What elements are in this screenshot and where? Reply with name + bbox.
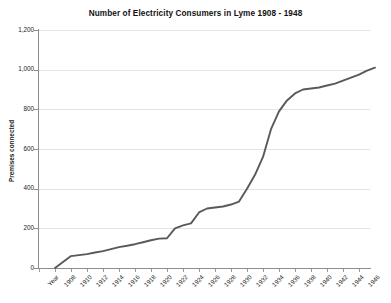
y-axis-tick-200: 200 xyxy=(0,225,34,231)
x-axis-tickmark xyxy=(71,269,72,272)
y-axis-tickmark xyxy=(34,149,38,150)
x-axis-tickmark xyxy=(343,269,344,272)
y-axis-tickmark xyxy=(34,268,38,269)
x-axis-tick-1932: 1932 xyxy=(255,274,269,288)
x-axis-tickmark xyxy=(199,269,200,272)
x-axis-tick-1908: 1908 xyxy=(63,274,77,288)
x-axis-tickmark xyxy=(359,269,360,272)
y-axis-tickmark xyxy=(34,189,38,190)
x-axis-tick-1916: 1916 xyxy=(127,274,141,288)
chart-container: Number of Electricity Consumers in Lyme … xyxy=(0,0,391,303)
x-axis-tick-1914: 1914 xyxy=(111,274,125,288)
x-axis-tickmark xyxy=(279,269,280,272)
y-axis-tickmark xyxy=(34,109,38,110)
y-axis-tickmark xyxy=(34,70,38,71)
x-axis-tickmark xyxy=(103,269,104,272)
x-axis-tickmark xyxy=(263,269,264,272)
x-axis-tickmark xyxy=(39,269,40,272)
x-axis-tickmark xyxy=(247,269,248,272)
plot-area xyxy=(39,30,370,268)
x-axis-tick-year: Year xyxy=(47,274,60,287)
x-axis-tickmark xyxy=(295,269,296,272)
x-axis-tick-1940: 1940 xyxy=(319,274,333,288)
series-line-premises-connected xyxy=(39,30,370,268)
x-axis-tick-1938: 1938 xyxy=(303,274,317,288)
y-axis-tick-1000: 1,000 xyxy=(0,66,34,72)
y-axis-tick-0: 0 xyxy=(0,265,34,271)
x-axis-tick-1912: 1912 xyxy=(95,274,109,288)
x-axis-tickmark xyxy=(183,269,184,272)
x-axis-tick-1946: 1946 xyxy=(367,274,381,288)
x-axis-tickmark xyxy=(167,269,168,272)
x-axis-tick-1918: 1918 xyxy=(143,274,157,288)
x-axis-tick-1922: 1922 xyxy=(175,274,189,288)
x-axis-tick-1944: 1944 xyxy=(351,274,365,288)
x-axis-tick-1924: 1924 xyxy=(191,274,205,288)
x-axis-tick-1926: 1926 xyxy=(207,274,221,288)
y-axis-tick-400: 400 xyxy=(0,185,34,191)
y-axis-tickmark xyxy=(34,30,38,31)
x-axis-tick-1930: 1930 xyxy=(239,274,253,288)
x-axis-tickmark xyxy=(215,269,216,272)
y-axis-tickmark xyxy=(34,228,38,229)
x-axis-tickmark xyxy=(135,269,136,272)
x-axis-tickmark xyxy=(311,269,312,272)
chart-title: Number of Electricity Consumers in Lyme … xyxy=(0,9,391,18)
y-axis-tick-800: 800 xyxy=(0,106,34,112)
x-axis-tick-1910: 1910 xyxy=(79,274,93,288)
x-axis-tick-1920: 1920 xyxy=(159,274,173,288)
y-axis-tick-labels: 02004006008001,0001,200 xyxy=(0,0,34,303)
y-axis-tick-600: 600 xyxy=(0,146,34,152)
x-axis-tick-1928: 1928 xyxy=(223,274,237,288)
x-axis-tickmark xyxy=(87,269,88,272)
x-axis-tick-1936: 1936 xyxy=(287,274,301,288)
x-axis-tickmark xyxy=(327,269,328,272)
x-axis-tick-1942: 1942 xyxy=(335,274,349,288)
x-axis-tickmark xyxy=(119,269,120,272)
x-axis-tickmark xyxy=(231,269,232,272)
y-axis-tick-1200: 1,200 xyxy=(0,27,34,33)
x-axis-tickmark xyxy=(55,269,56,272)
x-axis-tick-1934: 1934 xyxy=(271,274,285,288)
x-axis-tickmark xyxy=(151,269,152,272)
